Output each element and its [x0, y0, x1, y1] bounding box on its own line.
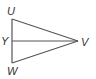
segment-wv	[12, 41, 78, 63]
label-y: Y	[1, 35, 9, 47]
triangle-diagram: U Y W V	[0, 0, 96, 79]
label-u: U	[7, 5, 15, 17]
label-v: V	[81, 36, 90, 48]
label-w: W	[7, 65, 19, 77]
segment-uv	[12, 19, 78, 41]
